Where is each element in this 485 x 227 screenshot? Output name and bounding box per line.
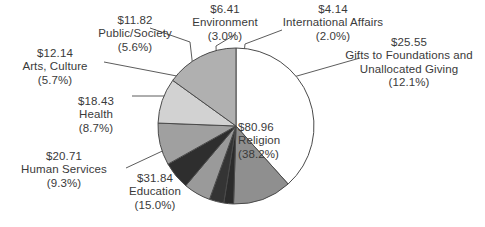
callout-education-percent: (15.0%) xyxy=(112,199,198,212)
callout-gifts-name-line1: Gifts to Foundations and xyxy=(334,49,484,62)
callout-environment-amount: $6.41 xyxy=(178,3,272,16)
callout-religion-name: Religion xyxy=(238,134,310,147)
callout-environment-percent: (3.0%) xyxy=(178,30,272,43)
callout-health: $18.43 Health (8.7%) xyxy=(62,95,130,135)
callout-gifts-percent: (12.1%) xyxy=(334,76,484,89)
callout-religion-amount: $80.96 xyxy=(238,121,310,134)
callout-international-affairs-amount: $4.14 xyxy=(272,3,394,16)
callout-environment-name: Environment xyxy=(178,16,272,29)
pie-chart-figure: $11.82 Public/Society (5.6%) $6.41 Envir… xyxy=(0,0,485,227)
callout-arts-culture: $12.14 Arts, Culture (5.7%) xyxy=(6,47,104,87)
callout-health-percent: (8.7%) xyxy=(62,122,130,135)
callout-gifts-name-line2: Unallocated Giving xyxy=(334,63,484,76)
callout-education-amount: $31.84 xyxy=(112,172,198,185)
callout-health-amount: $18.43 xyxy=(62,95,130,108)
callout-education-name: Education xyxy=(112,185,198,198)
callout-human-services-percent: (9.3%) xyxy=(2,177,126,190)
callout-arts-culture-name: Arts, Culture xyxy=(6,60,104,73)
callout-international-affairs-name: International Affairs xyxy=(272,16,394,29)
callout-religion: $80.96 Religion (38.2%) xyxy=(238,121,310,161)
callout-environment: $6.41 Environment (3.0%) xyxy=(178,3,272,43)
callout-human-services-amount: $20.71 xyxy=(2,150,126,163)
callout-education: $31.84 Education (15.0%) xyxy=(112,172,198,212)
callout-human-services-name: Human Services xyxy=(2,163,126,176)
callout-public-society-name: Public/Society xyxy=(86,27,184,40)
callout-arts-culture-percent: (5.7%) xyxy=(6,74,104,87)
callout-human-services: $20.71 Human Services (9.3%) xyxy=(2,150,126,190)
callout-public-society-amount: $11.82 xyxy=(86,14,184,27)
callout-gifts-amount: $25.55 xyxy=(334,36,484,49)
callout-gifts-to-foundations: $25.55 Gifts to Foundations and Unalloca… xyxy=(334,36,484,90)
callout-arts-culture-amount: $12.14 xyxy=(6,47,104,60)
callout-health-name: Health xyxy=(62,108,130,121)
callout-religion-percent: (38.2%) xyxy=(238,148,310,161)
